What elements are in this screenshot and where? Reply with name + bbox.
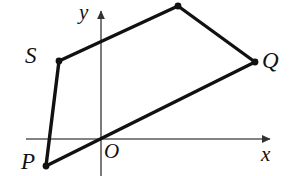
vertex-label-p: P (21, 150, 35, 173)
vertex-dots-group (43, 3, 259, 170)
vertex-label-q: Q (262, 49, 279, 72)
vertex-dot-s (56, 58, 63, 65)
figure-canvas (0, 0, 294, 176)
y-axis-label: y (79, 2, 88, 23)
vertex-dot-p (43, 163, 50, 170)
vertex-dot-q (252, 59, 259, 66)
vertex-dot-r (175, 3, 182, 10)
vertex-label-s: S (25, 44, 37, 67)
origin-label: O (104, 141, 119, 162)
geometry-figure: S Q P O x y (0, 0, 294, 176)
x-axis-label: x (261, 144, 270, 165)
quadrilateral-pqrs (46, 6, 255, 166)
